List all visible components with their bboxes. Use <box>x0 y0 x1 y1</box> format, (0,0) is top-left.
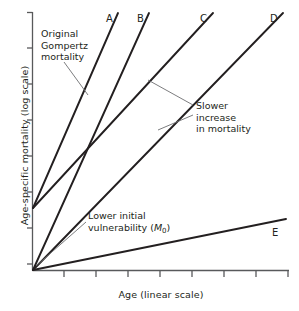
leader-slower-lower <box>158 115 193 130</box>
annotation-original-gompertz-line1: Original <box>41 28 88 40</box>
annotation-lower-initial-vulnerability-line1: Lower initial <box>88 210 170 222</box>
x-axis-title: Age (linear scale) <box>30 289 292 300</box>
annotation-lower-initial-vulnerability-line2: vulnerability (M0) <box>88 222 170 237</box>
annotation-slower-increase-line1: Slower <box>196 100 251 112</box>
annotation-closing-paren: ) <box>167 222 171 233</box>
annotation-original-gompertz-line3: mortality <box>41 51 88 63</box>
annotation-slower-increase: Slower increase in mortality <box>196 100 251 135</box>
x-axis-ticks <box>64 271 288 278</box>
curve-label-d: D <box>270 13 278 24</box>
curve-label-a: A <box>106 13 113 24</box>
leader-gompertz <box>64 62 88 95</box>
gompertz-mortality-figure: Age-specific mortality (log scale) Age (… <box>0 0 299 311</box>
leader-lower-initial <box>36 222 86 266</box>
annotation-slower-increase-line3: in mortality <box>196 123 251 135</box>
annotation-original-gompertz: Original Gompertz mortality <box>41 28 88 63</box>
annotation-lower-vulnerability-text: vulnerability ( <box>88 222 154 233</box>
annotation-lower-initial-vulnerability: Lower initial vulnerability (M0) <box>88 210 170 237</box>
leader-slower-upper <box>148 80 193 105</box>
y-axis-title: Age-specific mortality (log scale) <box>19 46 30 246</box>
curve-label-c: C <box>200 13 207 24</box>
annotation-original-gompertz-line2: Gompertz <box>41 40 88 52</box>
curve-label-e: E <box>272 227 278 238</box>
curve-label-b: B <box>137 13 144 24</box>
annotation-m-symbol: M <box>154 222 162 233</box>
annotation-slower-increase-line2: increase <box>196 112 251 124</box>
